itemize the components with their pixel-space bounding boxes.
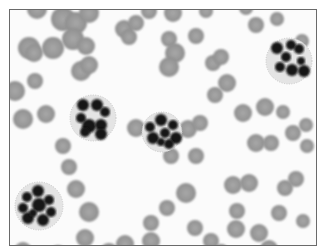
red-blood-cell [27, 10, 47, 19]
red-blood-cell [116, 235, 134, 245]
nucleus-lobe [37, 214, 49, 226]
nucleus-lobe [157, 138, 165, 146]
nucleus-lobe [281, 52, 291, 62]
nucleus-lobe [298, 65, 310, 77]
red-blood-cell [227, 220, 245, 238]
red-blood-cell [256, 98, 274, 116]
nucleus-lobe [145, 122, 155, 132]
red-blood-cell [42, 37, 64, 59]
red-blood-cell [296, 214, 310, 228]
nucleus-lobe [271, 42, 283, 54]
red-blood-cell [80, 56, 98, 74]
red-blood-cell [240, 174, 258, 192]
red-blood-cell [55, 138, 71, 154]
nucleus-lobe [22, 192, 32, 202]
neutrophil [266, 38, 312, 84]
neutrophil [70, 95, 116, 141]
nucleus-lobe [100, 107, 110, 117]
nucleus-lobe [297, 57, 305, 65]
red-blood-cell [143, 215, 159, 231]
micrograph-frame [9, 9, 317, 246]
nucleus-lobe [160, 128, 170, 138]
nucleus-lobe [77, 99, 89, 111]
red-blood-cell [207, 87, 223, 103]
red-blood-cell [176, 183, 196, 203]
blood-smear-image [10, 10, 316, 245]
red-blood-cell [159, 200, 175, 216]
red-blood-cell [121, 29, 137, 45]
red-blood-cell [234, 104, 252, 122]
red-blood-cell [141, 10, 157, 19]
red-blood-cell [13, 109, 33, 129]
red-blood-cell [285, 125, 301, 141]
nucleus-lobe [155, 114, 167, 126]
red-blood-cell [192, 115, 208, 131]
red-blood-cell [61, 159, 77, 175]
red-blood-cell [25, 44, 43, 62]
red-blood-cell [187, 220, 203, 236]
nucleus-lobe [294, 44, 304, 54]
neutrophil [142, 112, 182, 152]
red-blood-cell [239, 10, 253, 15]
red-blood-cell [14, 242, 32, 245]
red-blood-cell [188, 28, 204, 44]
red-blood-cell [288, 171, 304, 187]
red-blood-cell [10, 81, 25, 101]
nucleus-lobe [275, 62, 285, 72]
red-blood-cell [142, 232, 160, 245]
nucleus-lobe [46, 207, 56, 217]
red-blood-cell [224, 176, 242, 194]
red-blood-cell [276, 105, 290, 119]
nucleus-lobe [168, 120, 178, 130]
red-blood-cell [218, 74, 236, 92]
nucleus-lobe [164, 139, 174, 149]
red-blood-cell [300, 139, 314, 153]
red-blood-cell [27, 73, 43, 89]
nucleus-lobe [32, 185, 44, 197]
red-blood-cell [248, 17, 264, 33]
red-blood-cell [250, 224, 268, 242]
nucleus-lobe [286, 64, 298, 76]
nucleus-lobe [95, 128, 107, 140]
red-blood-cell [128, 15, 144, 31]
red-blood-cell [159, 57, 179, 77]
red-blood-cell [199, 10, 213, 18]
red-blood-cell [271, 205, 287, 221]
red-blood-cell [247, 134, 265, 152]
red-blood-cell [188, 148, 204, 164]
red-blood-cell [213, 49, 229, 65]
red-blood-cell [79, 202, 99, 222]
nucleus-lobe [80, 127, 90, 137]
neutrophil [15, 182, 63, 230]
red-blood-cell [203, 233, 219, 245]
red-blood-cell [229, 203, 245, 219]
red-blood-cell [263, 135, 279, 151]
nucleus-lobe [29, 209, 37, 217]
red-blood-cell [164, 10, 182, 22]
red-blood-cell [77, 37, 95, 55]
red-blood-cell [67, 180, 85, 198]
red-blood-cell [76, 229, 94, 245]
red-blood-cell [270, 12, 284, 26]
nucleus-lobe [18, 203, 28, 213]
red-blood-cell [37, 105, 55, 123]
red-blood-cell [299, 118, 313, 132]
